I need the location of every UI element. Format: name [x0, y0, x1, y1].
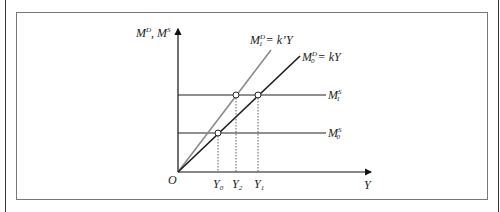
y0-base: Y: [213, 177, 220, 191]
y0-sub: 0: [220, 184, 224, 192]
label-m1s: MS1: [328, 89, 340, 103]
y2-sub: 2: [239, 184, 243, 192]
demand-line-m0d: [178, 56, 300, 172]
x-tick-y0: Y0: [213, 178, 223, 192]
equilibrium-point-y1: [255, 92, 261, 98]
y2-base: Y: [232, 177, 239, 191]
label-m1d: MD1 = k’Y: [250, 34, 293, 48]
y-label-base: M: [136, 26, 146, 40]
label-m0d: MD0 = kY: [302, 51, 341, 65]
m1s-sub: 1: [337, 95, 341, 103]
y-label-sep: , M: [151, 26, 167, 40]
x-axis-label: Y: [364, 179, 371, 191]
y-axis-label: MD, MS: [136, 27, 171, 39]
label-m0s: MS0: [328, 127, 340, 141]
demand-line-m1d: [178, 50, 271, 172]
x-tick-y2: Y2: [232, 178, 242, 192]
y1-sub: 1: [261, 184, 265, 192]
x-tick-y1: Y1: [254, 178, 264, 192]
equilibrium-point-y2: [233, 92, 239, 98]
m0s-sub: 0: [337, 133, 341, 141]
y1-base: Y: [254, 177, 261, 191]
y-label-sup2: S: [167, 26, 171, 34]
equilibrium-point-y0: [215, 130, 221, 136]
money-market-diagram: [0, 0, 500, 212]
m1d-eq: = k’Y: [263, 33, 293, 47]
m0d-eq: = kY: [315, 50, 341, 64]
origin-label: O: [168, 174, 177, 186]
